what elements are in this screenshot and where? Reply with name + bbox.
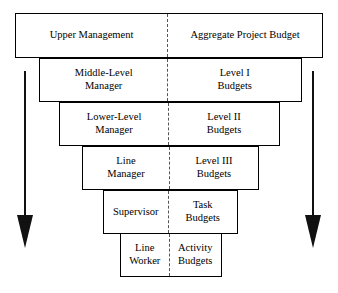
row-6-budget-cell: Activity Budgets [170, 234, 222, 276]
row-5-budget-cell: Task Budgets [169, 191, 238, 233]
pyramid-row-4: Line Manager Level III Budgets [82, 146, 259, 190]
row-6-role-cell: Line Worker [121, 234, 170, 276]
row-1-budget-cell: Aggregate Project Budget [168, 14, 322, 57]
pyramid-row-3: Lower-Level Manager Level II Budgets [59, 102, 280, 146]
row-3-budget-cell: Level II Budgets [169, 103, 279, 145]
row-4-role-cell: Line Manager [83, 147, 170, 189]
arrow-shaft-right [312, 71, 314, 215]
diagram-canvas: Upper Management Aggregate Project Budge… [0, 0, 338, 293]
pyramid-row-2: Middle-Level Manager Level I Budgets [39, 58, 302, 102]
pyramid-row-1: Upper Management Aggregate Project Budge… [15, 13, 323, 58]
row-2-role-cell: Middle-Level Manager [40, 59, 168, 101]
row-5-role-cell: Supervisor [104, 191, 169, 233]
pyramid-row-5: Supervisor Task Budgets [103, 190, 238, 234]
row-2-budget-cell: Level I Budgets [168, 59, 301, 101]
row-1-role-cell: Upper Management [16, 14, 168, 57]
arrow-head-left [17, 215, 33, 248]
downward-flow-arrow-right [305, 71, 322, 248]
downward-flow-arrow-left [17, 71, 34, 248]
arrow-shaft-left [24, 71, 26, 215]
pyramid-row-6: Line Worker Activity Budgets [120, 233, 222, 277]
row-4-budget-cell: Level III Budgets [170, 147, 258, 189]
arrow-head-right [305, 215, 321, 248]
row-3-role-cell: Lower-Level Manager [60, 103, 169, 145]
